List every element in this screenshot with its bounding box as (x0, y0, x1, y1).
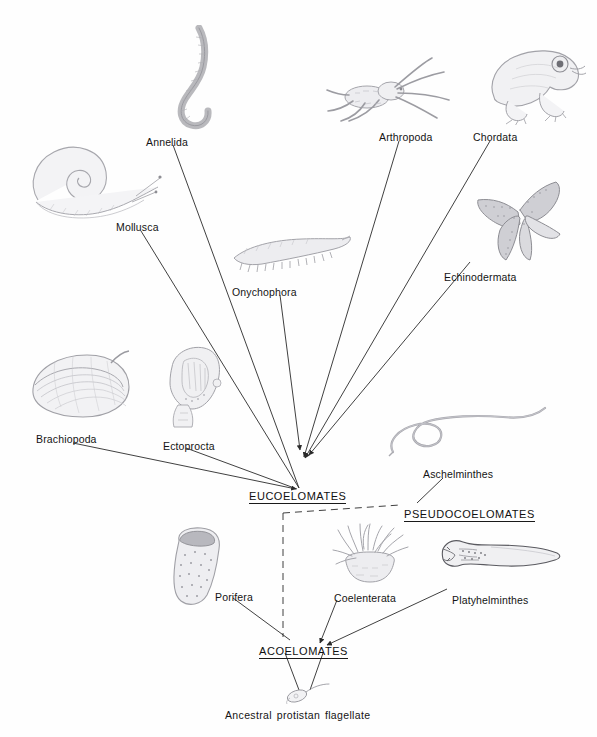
taxon-label-brachiopoda: Brachiopoda (36, 433, 97, 445)
taxon-label-ectoprocta: Ectoprocta (163, 440, 215, 452)
brachiopod-illustration (25, 345, 135, 425)
connector-porifera-to-acoelomates (233, 598, 290, 640)
taxon-label-echinodermata: Echinodermata (444, 271, 517, 283)
taxon-label-porifera: Porifera (215, 591, 253, 603)
connector-annelida-to-eucoelomates (173, 145, 299, 488)
figure-caption: Ancestral protistan flagellate (225, 709, 370, 721)
snail-illustration (20, 140, 165, 225)
connector-aschelminthes-to-pseudocoelomates (417, 478, 443, 503)
taxon-label-annelida: Annelida (146, 136, 188, 148)
taxon-label-onychophora: Onychophora (232, 286, 297, 298)
node-label-pseudocoelomates: PSEUDOCOELOMATES (404, 508, 535, 522)
connector-ectoprocta-to-eucoelomates (186, 448, 297, 489)
connector-coelenterata-to-acoelomates (320, 600, 337, 643)
nematode-illustration (385, 405, 550, 460)
velvet-worm-illustration (230, 232, 355, 277)
phylogenetic-tree-figure: Annelida Mollusca Arthropoda Chordata On… (0, 0, 597, 737)
taxon-label-arthropoda: Arthropoda (379, 131, 432, 143)
sea-anemone-illustration (330, 522, 410, 587)
frog-illustration (482, 35, 587, 125)
spider-illustration (325, 55, 455, 125)
node-label-acoelomates: ACOELOMATES (259, 645, 348, 659)
flatworm-illustration (437, 535, 567, 575)
taxon-label-mollusca: Mollusca (116, 221, 159, 233)
ectoproct-illustration (160, 343, 230, 433)
taxon-label-chordata: Chordata (473, 131, 517, 143)
flagellate-illustration (283, 683, 333, 705)
earthworm-illustration (165, 25, 225, 130)
sea-star-illustration (468, 180, 573, 265)
connector-eucoelomates-to-pseudocoelomates (283, 505, 400, 513)
taxon-label-platyhelminthes: Platyhelminthes (452, 594, 528, 606)
node-label-eucoelomates: EUCOELOMATES (249, 490, 346, 504)
taxon-label-aschelminthes: Aschelminthes (423, 468, 493, 480)
connector-onychophora-to-eucoelomates (280, 295, 300, 450)
taxon-label-coelenterata: Coelenterata (334, 592, 396, 604)
